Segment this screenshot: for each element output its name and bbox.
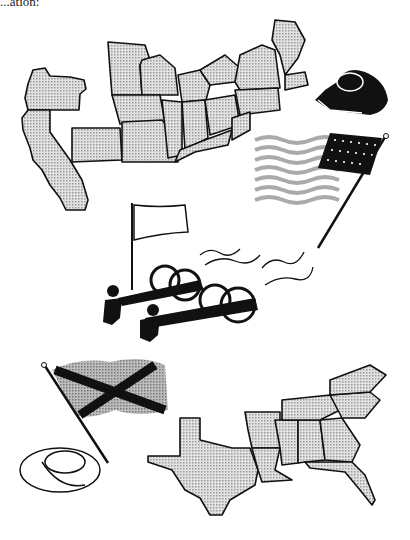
confederate-hat: [20, 448, 100, 492]
civil-war-illustration: [0, 0, 410, 540]
us-flag: [255, 133, 389, 248]
union-map: [72, 20, 308, 162]
confederacy-map: [148, 365, 386, 515]
union-kepi-hat: [315, 70, 388, 115]
cannons-with-soldiers: [103, 249, 313, 342]
